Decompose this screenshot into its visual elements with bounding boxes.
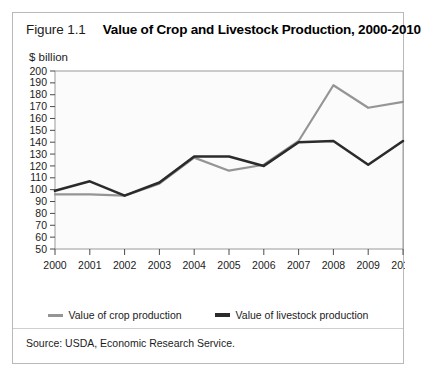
y-axis-tick-label: 80 [35, 207, 47, 219]
legend-swatch-livestock-icon [215, 313, 230, 317]
source-divider [13, 328, 403, 329]
y-axis-tick-label: 160 [29, 112, 47, 124]
x-axis-tick-label: 2009 [357, 259, 381, 271]
x-axis-tick-label: 2006 [252, 259, 276, 271]
y-axis-tick-label: 130 [29, 148, 47, 160]
chart-legend: Value of crop production Value of livest… [13, 309, 403, 321]
x-axis-tick-label: 2000 [43, 259, 67, 271]
figure-title: Value of Crop and Livestock Production, … [103, 22, 421, 37]
chart-plot-area: 2001901801701601501401301201101009080706… [13, 65, 405, 303]
line-chart: 2001901801701601501401301201101009080706… [13, 65, 405, 303]
y-axis-tick-label: 180 [29, 88, 47, 100]
y-axis-tick-label: 170 [29, 100, 47, 112]
y-axis-unit-label: $ billion [29, 51, 68, 63]
legend-item-crop: Value of crop production [48, 309, 182, 321]
y-axis-tick-label: 120 [29, 160, 47, 172]
source-note: Source: USDA, Economic Research Service. [26, 337, 235, 349]
legend-label-crop: Value of crop production [69, 309, 182, 321]
y-axis-tick-label: 200 [29, 65, 47, 77]
y-axis-tick-label: 190 [29, 76, 47, 88]
figure-header: Figure 1.1 Value of Crop and Livestock P… [13, 13, 403, 45]
x-axis-tick-label: 2002 [113, 259, 137, 271]
y-axis-tick-label: 100 [29, 183, 47, 195]
x-axis-tick-label: 2005 [217, 259, 241, 271]
figure-card: Figure 1.1 Value of Crop and Livestock P… [12, 12, 404, 364]
y-axis-tick-label: 110 [30, 171, 47, 183]
x-axis-tick-label: 2010 [391, 259, 405, 271]
y-axis-tick-label: 70 [35, 219, 47, 231]
x-axis-tick-label: 2004 [183, 259, 207, 271]
legend-swatch-crop-icon [48, 314, 63, 317]
legend-label-livestock: Value of livestock production [236, 309, 369, 321]
y-axis-tick-label: 60 [35, 231, 47, 243]
x-axis-tick-label: 2001 [78, 259, 102, 271]
x-axis-tick-label: 2007 [287, 259, 311, 271]
y-axis-tick-label: 90 [35, 195, 47, 207]
figure-number: Figure 1.1 [26, 22, 86, 37]
x-axis-tick-label: 2003 [148, 259, 172, 271]
y-axis-tick-label: 140 [29, 136, 47, 148]
legend-item-livestock: Value of livestock production [215, 309, 369, 321]
y-axis-tick-label: 50 [35, 243, 47, 255]
x-axis-tick-label: 2008 [322, 259, 346, 271]
y-axis-tick-label: 150 [29, 124, 47, 136]
